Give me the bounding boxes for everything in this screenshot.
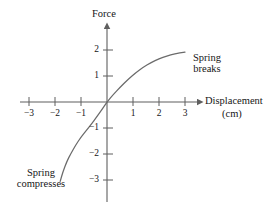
y-tick-label-neg1: −1	[83, 122, 99, 132]
y-tick-label-neg2: −2	[83, 148, 99, 158]
x-tick-label-1: 1	[128, 108, 138, 118]
annotation-spring-compresses-line1: Spring	[6, 167, 76, 178]
x-axis-units: (cm)	[222, 108, 242, 119]
y-axis-ticks	[103, 50, 113, 180]
annotation-spring-compresses: Spring compresses	[6, 167, 76, 190]
y-tick-label-1: 1	[88, 70, 99, 80]
x-tick-label-neg3: −3	[22, 108, 36, 118]
x-tick-label-2: 2	[154, 108, 164, 118]
force-displacement-chart: Force Displacement (cm) −3 −2 −1 1 2 3 2…	[0, 0, 279, 214]
y-axis-title: Force	[92, 8, 116, 19]
y-tick-label-2: 2	[88, 44, 99, 54]
annotation-spring-breaks-line1: Spring	[183, 52, 231, 63]
y-tick-label-neg3: −3	[83, 174, 99, 184]
x-tick-label-neg1: −1	[74, 108, 88, 118]
annotation-spring-breaks: Spring breaks	[183, 52, 231, 75]
annotation-spring-compresses-line2: compresses	[6, 178, 76, 189]
x-axis-title: Displacement	[205, 95, 263, 106]
x-tick-label-3: 3	[180, 108, 190, 118]
x-tick-label-neg2: −2	[48, 108, 62, 118]
annotation-spring-breaks-line2: breaks	[183, 63, 231, 74]
